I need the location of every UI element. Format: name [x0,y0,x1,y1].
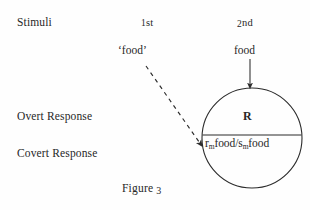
stimulus-label-food: food [234,45,255,57]
spoken-food-to-covert-response-arrow [146,66,201,144]
diagram-vector-layer [0,0,310,210]
column-header-first: 1st [141,18,153,29]
figure-caption: Figure 3 [122,183,162,195]
figure-caption-word: Figure [122,182,153,194]
column-header-first-digit: 1 [141,18,146,28]
stimulus-label-spoken-food: ‘food’ [118,45,147,57]
formula-subscript-m-2: m [243,142,249,151]
column-header-first-suffix: st [146,17,153,28]
row-label-covert-response: Covert Response [17,148,98,160]
formula-part-food-slash-s: food/s [214,137,242,149]
column-header-second-digit: 2 [237,19,242,29]
formula-subscript-m-1: m [209,142,215,151]
figure-caption-number: 3 [156,185,161,196]
formula-part-food: food [248,137,269,149]
figure-canvas: Stimuli Overt Response Covert Response 1… [0,0,310,210]
row-label-stimuli: Stimuli [17,17,52,29]
covert-response-formula: rmfood/smfood [205,138,269,150]
row-label-overt-response: Overt Response [17,111,92,123]
overt-response-symbol: R [243,110,252,122]
column-header-second: 2nd [237,18,253,29]
column-header-second-suffix: nd [242,17,253,28]
